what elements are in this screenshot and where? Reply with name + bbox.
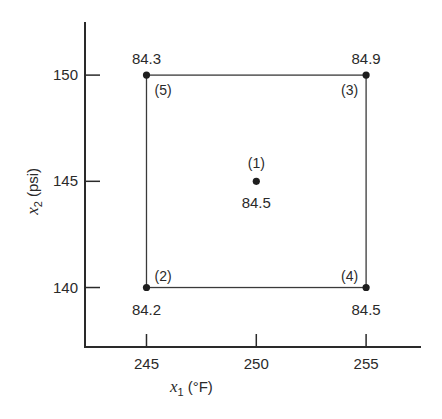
design-point: (2)84.2 (132, 268, 172, 318)
y-ticks: 140145150 (53, 66, 100, 295)
x-tick-label: 255 (354, 355, 379, 372)
x-tick-label: 245 (134, 355, 159, 372)
x-axis-unit: (°F) (188, 378, 213, 395)
design-point: (4)84.5 (341, 268, 381, 318)
axes (84, 22, 421, 347)
y-axis-title: x2(psi) (23, 168, 44, 216)
design-point: (5)84.3 (132, 50, 172, 98)
point-marker (143, 72, 150, 79)
point-marker (362, 284, 369, 291)
run-label: (1) (248, 155, 265, 171)
response-value-label: 84.9 (351, 50, 380, 67)
x-axis-sub: 1 (178, 386, 184, 398)
y-axis-sub: 2 (32, 201, 44, 207)
x-ticks: 245250255 (134, 334, 379, 372)
design-point: (3)84.9 (341, 50, 381, 98)
response-value-label: 84.5 (351, 301, 380, 318)
response-value-label: 84.2 (132, 301, 161, 318)
response-value-label: 84.3 (132, 50, 161, 67)
run-label: (2) (154, 268, 171, 284)
x-axis-title: x1(°F) (169, 377, 213, 398)
run-label: (5) (154, 82, 171, 98)
factorial-design-chart: 245250255 140145150 (1)84.5(2)84.2(3)84.… (0, 0, 442, 419)
design-points: (1)84.5(2)84.2(3)84.9(4)84.5(5)84.3 (132, 50, 381, 317)
y-tick-label: 140 (53, 279, 78, 296)
run-label: (4) (341, 268, 358, 284)
y-tick-label: 150 (53, 66, 78, 83)
point-marker (362, 72, 369, 79)
point-marker (143, 284, 150, 291)
y-axis-unit: (psi) (24, 168, 41, 197)
response-value-label: 84.5 (242, 194, 271, 211)
y-tick-label: 145 (53, 172, 78, 189)
run-label: (3) (341, 82, 358, 98)
point-marker (253, 178, 260, 185)
x-tick-label: 250 (244, 355, 269, 372)
design-point: (1)84.5 (242, 155, 271, 211)
